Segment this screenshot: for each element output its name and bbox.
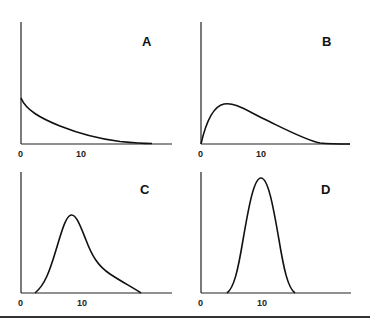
panel-a: 0 10 A [18,22,172,159]
x-tick-0: 0 [18,149,23,159]
x-tick-0: 0 [198,149,203,159]
curve-a [21,98,152,144]
chart-figure: 0 10 A 0 10 B 0 10 C 0 10 D [0,0,370,327]
x-tick-0: 0 [198,298,203,308]
curve-d [227,178,295,293]
curve-c [35,215,141,293]
panel-label: C [140,182,150,197]
panel-c: 0 10 C [18,172,172,308]
panel-d: 0 10 D [198,172,351,308]
panel-label: D [321,182,330,197]
x-tick-10: 10 [77,298,87,308]
x-tick-10: 10 [256,149,266,159]
panel-label: A [142,34,152,49]
curve-b [201,104,350,144]
x-tick-10: 10 [257,298,267,308]
panel-b: 0 10 B [198,22,350,159]
x-tick-0: 0 [18,298,23,308]
panel-label: B [322,34,331,49]
x-tick-10: 10 [76,149,86,159]
